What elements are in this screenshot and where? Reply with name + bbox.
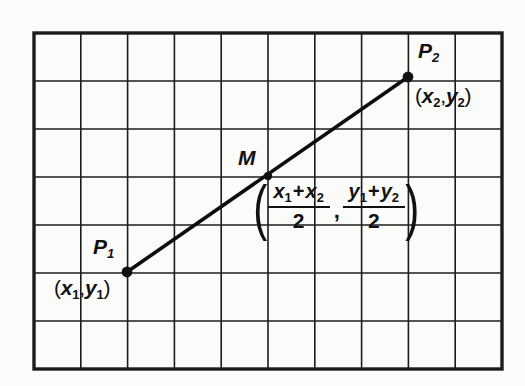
formula-comma: , (334, 198, 340, 232)
midpoint-formula: ( x1+x2 2 , y1+y2 2 ) (254, 181, 418, 232)
y1-var: y (349, 180, 360, 202)
point-label-p2-subscript: 2 (432, 50, 439, 65)
point-label-p2: P2 (418, 40, 439, 64)
point-label-m-letter: M (238, 146, 256, 169)
point-label-p1: P1 (93, 236, 114, 260)
point-label-p1-subscript: 1 (107, 246, 114, 261)
x-midpoint-fraction: x1+x2 2 (268, 181, 330, 232)
x-fraction-numerator: x1+x2 (270, 181, 326, 206)
coord-y-var: y (446, 84, 457, 107)
point-label-p1-letter: P (93, 235, 107, 258)
x2-var: x (306, 180, 317, 202)
paren-open: ( (415, 84, 422, 107)
y2-var: y (381, 180, 392, 202)
paren-close: ) (464, 84, 471, 107)
coord-x-var: x (422, 84, 433, 107)
x1-sub: 1 (285, 190, 292, 205)
x2-sub: 2 (317, 190, 324, 205)
point-coordinates-p2: (x2,y2) (415, 85, 471, 109)
y-fraction-numerator: y1+y2 (346, 181, 402, 206)
y2-sub: 2 (392, 190, 399, 205)
figure-canvas: P2 (x2,y2) M P1 (x1,y1) ( x1+x2 2 , y1+y… (0, 0, 525, 386)
y-fraction-denominator: 2 (368, 208, 380, 232)
point-dot-p2 (403, 72, 414, 83)
y-midpoint-fraction: y1+y2 2 (343, 181, 405, 232)
paren-open: ( (54, 276, 61, 299)
formula-paren-close: ) (405, 184, 419, 230)
point-coordinates-p1: (x1,y1) (54, 277, 110, 301)
x1-var: x (273, 180, 284, 202)
coord-x-var: x (61, 276, 72, 299)
formula-paren-open: ( (253, 184, 267, 230)
coord-y-var: y (85, 276, 96, 299)
point-label-m: M (238, 147, 256, 168)
y1-sub: 1 (360, 190, 367, 205)
y-plus-operator: + (367, 180, 381, 202)
x-plus-operator: + (292, 180, 306, 202)
paren-close: ) (103, 276, 110, 299)
x-fraction-denominator: 2 (293, 208, 305, 232)
point-dot-p1 (122, 267, 133, 278)
point-label-p2-letter: P (418, 39, 432, 62)
